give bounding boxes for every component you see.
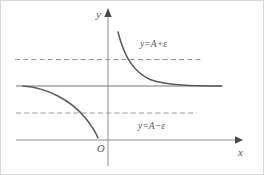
y-axis — [104, 8, 111, 166]
limit-asymptote-figure: y x O y=A+ε y=A−ε — [0, 0, 264, 175]
x-axis-arrowhead-icon — [235, 136, 243, 144]
x-axis — [16, 136, 243, 144]
curve-left-branch — [23, 86, 98, 138]
upper-bound-label: y=A+ε — [140, 40, 167, 50]
figure-canvas — [1, 1, 264, 175]
y-axis-arrowhead-icon — [104, 8, 111, 17]
x-axis-label: x — [238, 147, 243, 158]
origin-label: O — [97, 144, 105, 155]
lower-bound-label: y=A−ε — [138, 122, 165, 132]
y-axis-label: y — [96, 9, 101, 20]
